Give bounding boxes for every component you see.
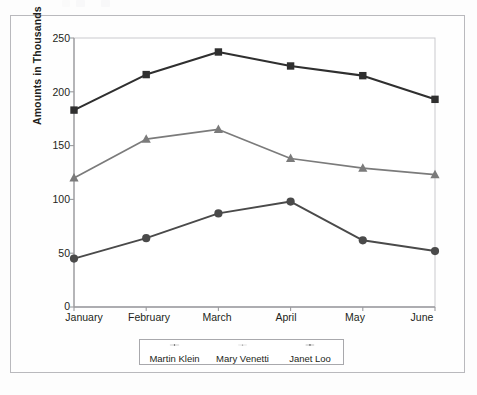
square-marker-icon [277, 344, 343, 346]
circle-marker-icon [141, 344, 208, 346]
x-axis-tick-label: January [47, 311, 121, 323]
legend-item-label: Janet Loo [277, 353, 343, 364]
scan-artifact-fragment [76, 0, 85, 7]
y-axis-tick-label: 50 [36, 247, 70, 259]
x-axis-tick-label: May [318, 311, 392, 323]
legend-item[interactable]: Martin Klein [141, 340, 208, 366]
y-axis-tick-label: 250 [36, 32, 70, 44]
legend-item-label: Martin Klein [141, 353, 208, 364]
legend-item[interactable]: Janet Loo [277, 340, 343, 366]
scan-artifact-fragment [101, 0, 110, 7]
x-axis-tick-label: April [249, 311, 323, 323]
chart-figure: Amounts in Thousands 250 200 150 100 50 … [0, 0, 477, 395]
y-axis-tick-label: 200 [36, 86, 70, 98]
x-axis-tick-label: February [112, 311, 186, 323]
legend-item-label: Mary Venetti [208, 353, 277, 364]
triangle-marker-icon [208, 344, 277, 346]
legend-item[interactable]: Mary Venetti [208, 340, 277, 366]
y-axis-tick-label: 150 [36, 139, 70, 151]
y-axis-title: Amounts in Thousands [31, 5, 43, 125]
scan-artifact-fragment [62, 0, 70, 7]
y-axis-tick-label: 100 [36, 193, 70, 205]
x-axis-tick-label: March [180, 311, 254, 323]
x-axis-tick-label: June [385, 311, 459, 323]
chart-legend: Martin Klein Mary Venetti Janet Loo [139, 339, 344, 365]
